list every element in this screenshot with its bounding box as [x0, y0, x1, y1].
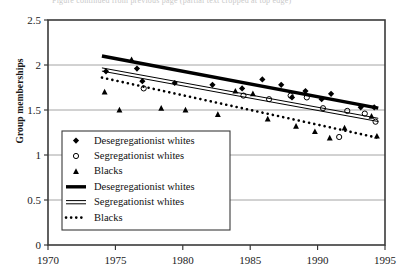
trend-lines	[102, 56, 378, 138]
trend-line-segregationist-upper	[102, 68, 378, 118]
x-tick-label: 1975	[104, 254, 127, 266]
y-tick-label: 1	[36, 149, 42, 161]
legend-item-label: Blacks	[94, 212, 123, 223]
chart-plot: 00.511.522.5 197019751980198519901995 De…	[0, 0, 406, 278]
point-blacks	[369, 113, 375, 119]
trend-line-segregationist-lower	[102, 71, 378, 121]
point-blacks	[327, 135, 333, 141]
point-blacks	[215, 111, 221, 117]
point-segregationist-whites	[337, 134, 342, 139]
chart-legend: Desegregationist whitesSegregationist wh…	[62, 131, 230, 230]
x-tick-label: 1970	[37, 254, 60, 266]
point-desegregationist-whites	[209, 82, 215, 88]
y-tick-label: 1.5	[27, 104, 41, 116]
y-axis-ticks: 00.511.522.5	[27, 14, 48, 251]
x-tick-label: 1995	[374, 254, 397, 266]
legend-item-label: Desegregationist whites	[94, 135, 195, 146]
chart-container: Figure continued from previous page (par…	[0, 0, 406, 278]
y-tick-label: 2.5	[27, 14, 41, 26]
point-desegregationist-whites	[259, 76, 265, 82]
x-tick-label: 1980	[172, 254, 195, 266]
legend-item-label: Blacks	[94, 165, 123, 176]
point-blacks	[312, 128, 318, 134]
trend-line-blacks	[102, 78, 378, 138]
y-tick-label: 0.5	[27, 194, 41, 206]
point-desegregationist-whites	[239, 85, 245, 91]
point-blacks	[265, 116, 271, 122]
point-blacks	[232, 88, 238, 94]
point-desegregationist-whites	[134, 66, 140, 72]
legend-item-label: Desegregationist whites	[94, 181, 195, 192]
point-blacks	[342, 125, 348, 131]
x-tick-label: 1990	[307, 254, 330, 266]
point-blacks	[293, 123, 299, 129]
legend-item-label: Segregationist whites	[94, 150, 184, 161]
point-blacks	[129, 56, 135, 62]
point-blacks	[374, 133, 380, 139]
x-axis-ticks: 197019751980198519901995	[37, 245, 397, 266]
point-blacks	[250, 91, 256, 97]
legend-item-label: Segregationist whites	[94, 196, 184, 207]
y-tick-label: 0	[36, 239, 42, 251]
point-desegregationist-whites	[328, 91, 334, 97]
point-desegregationist-whites	[278, 82, 284, 88]
y-tick-label: 2	[36, 59, 42, 71]
data-points	[102, 56, 380, 140]
x-tick-label: 1985	[239, 254, 262, 266]
point-blacks	[102, 89, 108, 95]
point-blacks	[158, 105, 164, 111]
